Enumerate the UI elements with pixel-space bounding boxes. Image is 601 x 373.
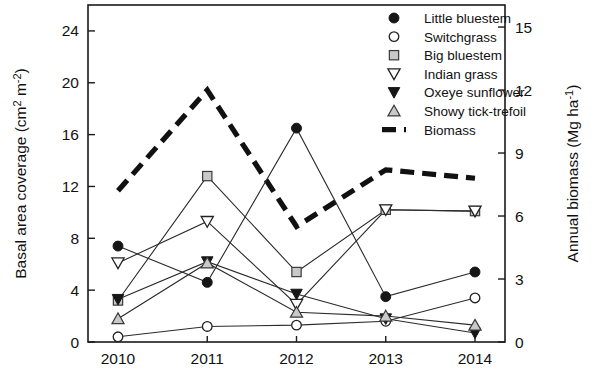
legend-marker-open-down-triangle [388,69,400,80]
left-axis-tick-label: 12 [62,178,79,195]
legend-item[interactable]: Indian grass [388,67,498,82]
legend-marker-filled-circle [389,13,399,23]
series-markers [113,171,479,305]
left-axis-tick-label: 4 [70,282,79,299]
legend-item[interactable]: Little bluestem [389,11,511,26]
data-point [470,293,480,303]
data-point [202,277,212,287]
x-axis-tick-label: 2012 [279,350,313,367]
data-point [292,320,302,330]
data-point [291,289,303,300]
right-axis-tick-label: 3 [515,271,524,288]
legend-label: Switchgrass [424,30,497,45]
legend-label: Little bluestem [424,11,511,26]
legend-item[interactable]: Big bluestem [389,48,502,63]
right-axis-tick-label: 0 [515,334,524,351]
legend-marker-open-circle [389,32,399,42]
left-axis-title: Basal area coverage (cm2 m-2) [11,68,29,279]
x-axis-tick-label: 2011 [191,350,224,367]
data-point [381,292,391,302]
right-axis-tick-label: 15 [515,19,532,36]
chart-figure: 048121620240369121520102011201220132014B… [0,0,601,373]
left-axis-tick-label: 8 [70,230,79,247]
legend-label: Biomass [424,123,476,138]
data-point [113,241,123,251]
left-axis-tick-label: 24 [62,22,80,39]
left-axis-tick-label: 16 [62,126,79,143]
x-axis-tick-label: 2013 [369,350,403,367]
data-point [292,123,302,133]
data-point [112,313,124,324]
left-axis-tick-label: 0 [70,334,79,351]
data-point [292,267,301,276]
data-point [202,322,212,332]
legend-label: Showy tick-trefoil [424,104,526,119]
legend-label: Indian grass [424,67,498,82]
series-line-biomass [118,90,475,226]
legend-marker-gray-up-triangle [388,105,400,116]
x-axis-tick-label: 2014 [458,350,493,367]
right-axis-title: Annual biomass (Mg ha-1) [563,85,581,263]
data-point [290,306,302,317]
left-axis-tick-label: 20 [62,74,80,91]
data-point [470,267,480,277]
right-axis-tick-label: 9 [515,145,524,162]
data-point [203,171,212,180]
x-axis-tick-label: 2010 [101,350,136,367]
data-point [112,258,124,269]
legend-marker-gray-square [389,51,398,60]
legend-item[interactable]: Showy tick-trefoil [388,104,526,119]
chart-canvas: 048121620240369121520102011201220132014B… [0,0,601,373]
right-axis-tick-label: 6 [515,208,524,225]
data-point [113,332,123,342]
legend-label: Oxeye sunflower [424,85,525,100]
legend-marker-filled-down-triangle [388,88,400,99]
legend-item[interactable]: Switchgrass [389,30,497,45]
legend-label: Big bluestem [424,48,502,63]
legend-item[interactable]: Biomass [382,123,476,138]
legend-item[interactable]: Oxeye sunflower [388,85,525,100]
